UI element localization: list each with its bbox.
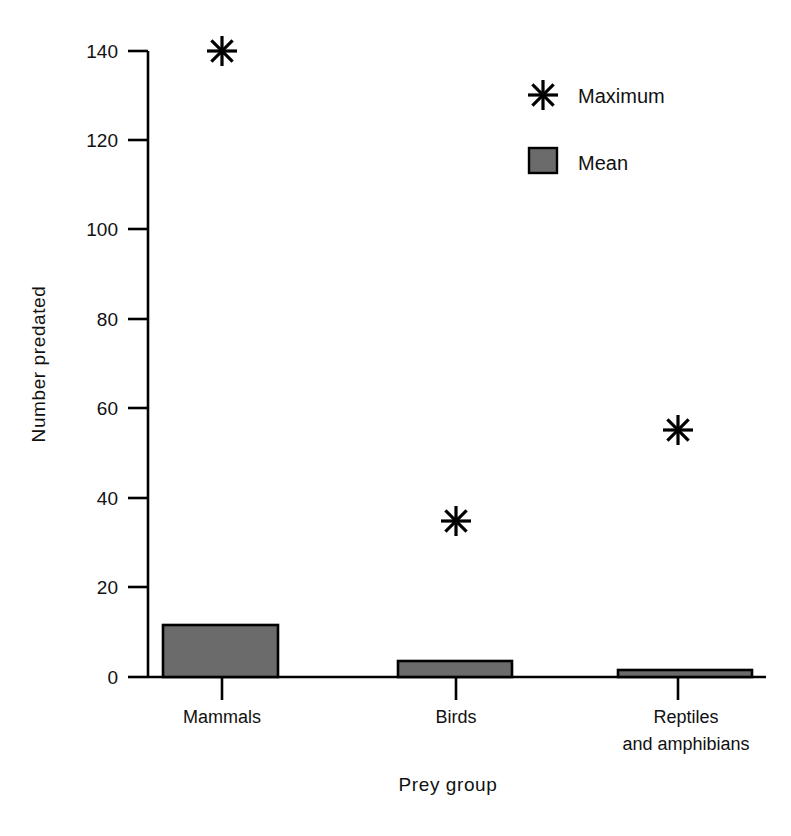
x-label-birds: Birds	[435, 707, 476, 727]
marker-mammals-maximum	[207, 36, 237, 66]
x-axis-ticks	[222, 677, 678, 700]
mean-bars-group	[163, 625, 752, 677]
maximum-markers-group	[207, 36, 693, 536]
marker-reptiles-maximum	[663, 415, 693, 445]
y-axis-ticks	[128, 51, 148, 677]
legend-label-mean: Mean	[578, 152, 628, 174]
y-tick-label-140: 140	[86, 41, 118, 62]
asterisk-marker-icon	[528, 80, 558, 110]
y-axis-title: Number predated	[28, 286, 49, 443]
legend-label-maximum: Maximum	[578, 85, 665, 107]
chart-figure: 140 120 100 80 60 40 20 0 Number predate…	[0, 0, 791, 836]
y-tick-label-0: 0	[107, 667, 118, 688]
legend-entry-maximum: Maximum	[528, 80, 665, 110]
x-label-mammals: Mammals	[183, 707, 261, 727]
x-axis-category-labels: Mammals Birds Reptiles and amphibians	[183, 707, 750, 754]
legend-entry-mean: Mean	[529, 148, 628, 174]
bar-birds-mean	[398, 661, 512, 677]
y-tick-label-80: 80	[97, 309, 118, 330]
y-tick-label-40: 40	[97, 488, 118, 509]
chart-legend: Maximum Mean	[528, 80, 665, 174]
x-label-reptiles-line1: Reptiles	[653, 707, 718, 727]
bar-reptiles-mean	[618, 670, 752, 677]
bar-mammals-mean	[163, 625, 278, 677]
x-axis-title: Prey group	[399, 774, 498, 795]
square-swatch-icon	[529, 148, 557, 173]
marker-birds-maximum	[441, 506, 471, 536]
y-axis-tick-labels: 140 120 100 80 60 40 20 0	[86, 41, 118, 688]
x-label-reptiles-line2: and amphibians	[622, 734, 749, 754]
y-tick-label-20: 20	[97, 577, 118, 598]
y-tick-label-120: 120	[86, 130, 118, 151]
y-tick-label-100: 100	[86, 219, 118, 240]
y-tick-label-60: 60	[97, 398, 118, 419]
predation-bar-chart: 140 120 100 80 60 40 20 0 Number predate…	[0, 0, 791, 836]
